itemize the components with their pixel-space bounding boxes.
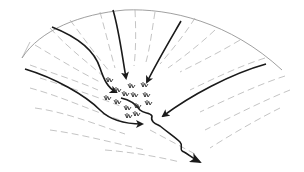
- stream-channel: [121, 98, 200, 162]
- slope-lines: [30, 10, 290, 162]
- catchment-diagram: [0, 0, 304, 172]
- flow-arrow-center-right: [147, 21, 181, 82]
- diagram-canvas: [0, 0, 304, 172]
- catchment-outline: [22, 10, 282, 70]
- flow-arrows: [25, 10, 266, 124]
- flow-arrow-right: [163, 64, 266, 116]
- flow-arrow-left-outer: [25, 69, 142, 124]
